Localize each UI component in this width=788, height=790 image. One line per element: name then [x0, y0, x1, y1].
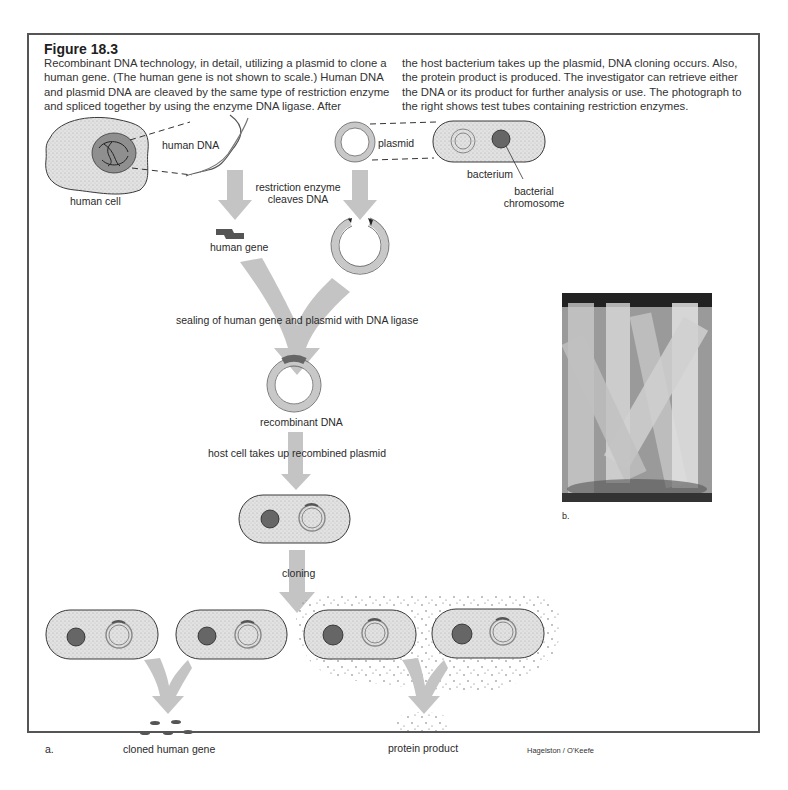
clone-bacterium-1: [46, 610, 158, 659]
label-bacterium: bacterium: [467, 168, 513, 180]
cloned-gene-fragments: [140, 720, 193, 735]
human-gene-fragment: [216, 229, 244, 239]
clone-bacterium-3: [304, 610, 416, 659]
human-cell: [46, 117, 149, 194]
label-recombinant-dna: recombinant DNA: [260, 416, 343, 428]
plasmid-ring: [338, 125, 372, 159]
clone-bacterium-2: [176, 610, 287, 659]
label-cloning: cloning: [282, 567, 315, 579]
clone-bacterium-4: [432, 609, 544, 658]
credit: Hagelston / O'Keefe: [527, 746, 594, 755]
arrow-down-icon: [218, 170, 252, 220]
label-sealing: sealing of human gene and plasmid with D…: [176, 314, 418, 326]
cleaved-plasmid: [335, 222, 385, 270]
label-cloned-human-gene: cloned human gene: [123, 743, 215, 755]
arrow-down-icon: [343, 170, 377, 220]
protein-product-pile: [393, 712, 453, 736]
arrow-down-icon: [281, 432, 311, 490]
label-protein-product: protein product: [388, 742, 458, 754]
label-human-gene: human gene: [210, 241, 268, 253]
split-arrow-icon: [144, 658, 192, 714]
label-human-dna: human DNA: [162, 139, 219, 151]
label-restriction-enzyme: restriction enzyme cleaves DNA: [250, 181, 346, 205]
label-panel-a: a.: [45, 743, 54, 755]
label-panel-b: b.: [562, 511, 570, 521]
host-bacterium: [239, 495, 350, 543]
label-host-cell: host cell takes up recombined plasmid: [208, 447, 386, 459]
label-bacterial-chromosome: bacterial chromosome: [503, 185, 565, 209]
label-plasmid: plasmid: [378, 137, 414, 149]
label-human-cell: human cell: [70, 195, 121, 207]
test-tubes-photo: [562, 293, 712, 502]
